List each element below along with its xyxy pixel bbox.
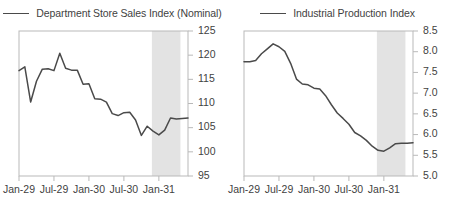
x-tick-label-right: Jan-30 [298, 183, 330, 195]
recession-shaded-band-left [152, 31, 181, 176]
x-tick-label-left: Jan-31 [143, 183, 175, 195]
x-tick-label-right: Jul-29 [265, 183, 294, 195]
chart-panel-left: Department Store Sales Index (Nominal) 9… [0, 0, 225, 207]
y-tick-label-right: 7.5 [423, 65, 438, 77]
x-tick-label-left: Jan-30 [73, 183, 105, 195]
y-tick-label-left: 100 [198, 145, 216, 157]
x-tick-label-right: Jul-30 [335, 183, 364, 195]
y-tick-label-left: 110 [198, 96, 215, 108]
y-tick-label-right: 5.5 [423, 148, 438, 160]
y-tick-label-right: 6.0 [423, 127, 438, 139]
chart-panel-right: Industrial Production Index 5.05.56.06.5… [225, 0, 450, 207]
x-tick-label-right: Jan-31 [368, 183, 400, 195]
plot-area-left: 95100105110115120125Jan-29Jul-29Jan-30Ju… [0, 0, 225, 207]
plot-area-right: 5.05.56.06.57.07.58.08.5Jan-29Jul-29Jan-… [225, 0, 450, 207]
y-tick-label-right: 8.0 [423, 44, 438, 56]
y-tick-label-left: 115 [198, 72, 215, 84]
y-tick-label-right: 5.0 [423, 169, 438, 181]
x-tick-label-left: Jul-30 [110, 183, 139, 195]
y-tick-label-left: 105 [198, 120, 216, 132]
x-tick-label-left: Jul-29 [40, 183, 69, 195]
y-tick-label-left: 120 [198, 48, 216, 60]
y-tick-label-right: 8.5 [423, 24, 438, 36]
x-tick-label-left: Jan-29 [3, 183, 35, 195]
two-panel-line-chart-figure: Department Store Sales Index (Nominal) 9… [0, 0, 450, 207]
y-tick-label-left: 95 [198, 169, 210, 181]
y-tick-label-right: 6.5 [423, 107, 438, 119]
y-tick-label-left: 125 [198, 24, 216, 36]
x-tick-label-right: Jan-29 [228, 183, 260, 195]
recession-shaded-band-right [377, 31, 406, 176]
y-tick-label-right: 7.0 [423, 86, 438, 98]
